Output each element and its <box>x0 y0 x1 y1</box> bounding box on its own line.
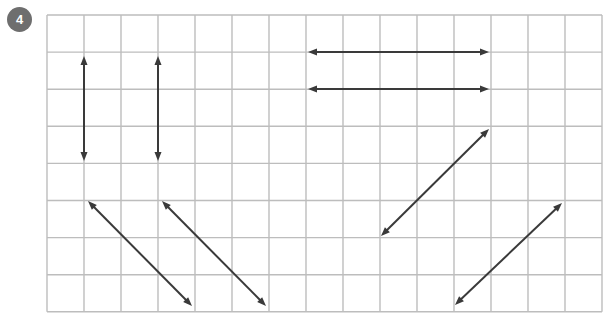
vertical-arrow-left <box>81 56 88 161</box>
arrow-head <box>308 86 317 93</box>
grid-lines <box>47 15 602 312</box>
arrow-head <box>308 49 317 56</box>
vertical-arrow-second <box>155 56 162 161</box>
arrow-head <box>155 152 162 161</box>
arrow-shaft <box>459 206 559 301</box>
arrow-shaft <box>91 205 188 303</box>
diagonal-arrow-up-right-right <box>455 203 562 305</box>
diagonal-arrow-up-right-middle <box>381 129 489 236</box>
arrow-head <box>480 49 489 56</box>
arrow-head <box>155 56 162 65</box>
arrow-head <box>81 152 88 161</box>
grid-with-arrows-figure <box>0 0 614 323</box>
arrow-shaft <box>165 205 262 303</box>
arrow-shaft <box>385 132 486 232</box>
arrow-layer <box>81 49 563 307</box>
horizontal-arrow-top <box>308 49 489 56</box>
worksheet-page: 4 <box>0 0 614 323</box>
arrow-head <box>81 56 88 65</box>
horizontal-arrow-bottom <box>308 86 489 93</box>
arrow-head <box>480 86 489 93</box>
